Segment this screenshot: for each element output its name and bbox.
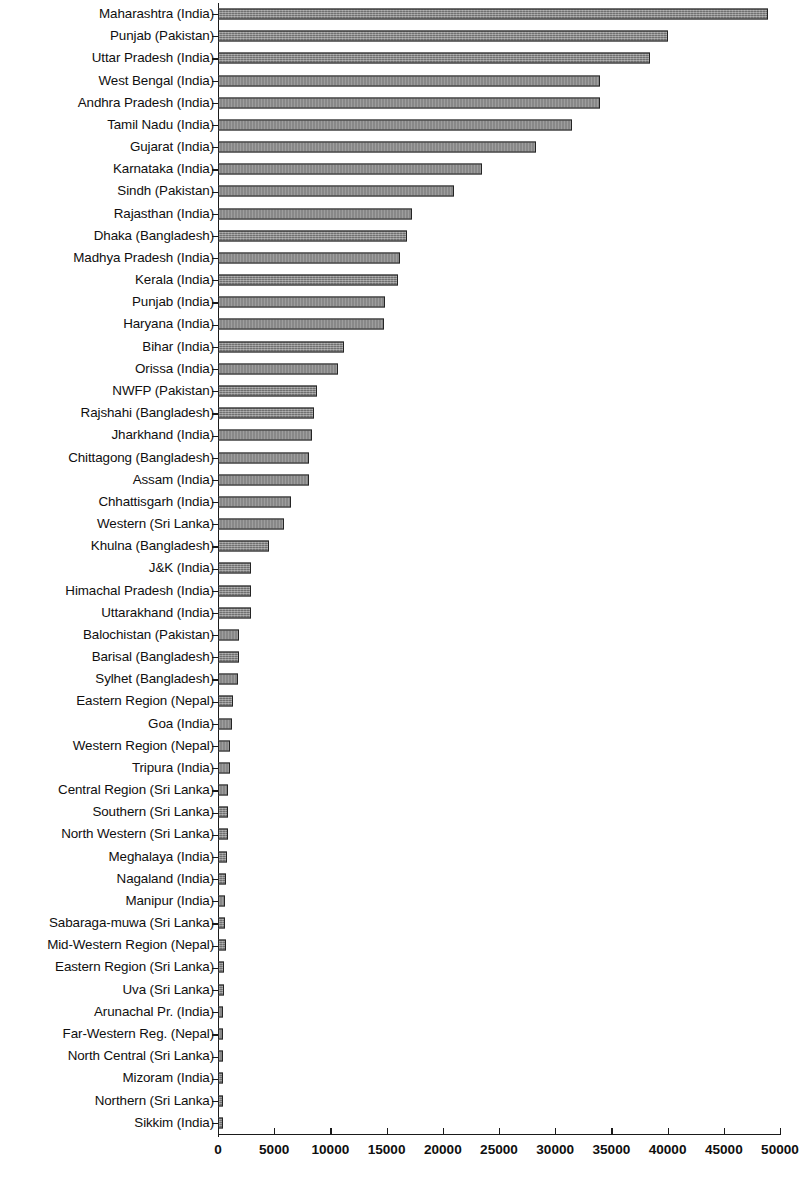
category-label: Mid-Western Region (Nepal) [47, 938, 218, 952]
category-label: North Central (Sri Lanka) [68, 1049, 218, 1063]
bar-row: North Central (Sri Lanka) [0, 1045, 804, 1067]
bar [218, 785, 228, 796]
category-tick [212, 369, 218, 370]
category-tick [212, 613, 218, 614]
category-label: Uttarakhand (India) [101, 606, 218, 620]
category-tick [212, 524, 218, 525]
value-tick [443, 1128, 444, 1135]
category-tick [212, 879, 218, 880]
category-tick [212, 14, 218, 15]
value-tick [218, 1128, 219, 1135]
bar [218, 829, 228, 840]
category-label: Tripura (India) [132, 761, 218, 775]
bar [218, 652, 239, 663]
bar [218, 674, 238, 685]
bar-row: Dhaka (Bangladesh) [0, 225, 804, 247]
category-label: Dhaka (Bangladesh) [94, 229, 218, 243]
bar [218, 252, 400, 263]
bar-row: Meghalaya (India) [0, 846, 804, 868]
category-tick [212, 81, 218, 82]
category-label: J&K (India) [149, 561, 218, 575]
category-label: Uva (Sri Lanka) [122, 983, 218, 997]
category-tick [212, 857, 218, 858]
category-tick [212, 436, 218, 437]
category-label: Meghalaya (India) [109, 850, 218, 864]
category-tick [212, 36, 218, 37]
bar-row: Karnataka (India) [0, 158, 804, 180]
bar [218, 386, 317, 397]
bar-row: Sabaraga-muwa (Sri Lanka) [0, 912, 804, 934]
bar [218, 474, 309, 485]
bar [218, 984, 224, 995]
bar-row: Sikkim (India) [0, 1112, 804, 1134]
bar-row: Bihar (India) [0, 336, 804, 358]
category-label: Sikkim (India) [134, 1116, 218, 1130]
value-tick-label: 5000 [259, 1142, 289, 1157]
category-tick [212, 1034, 218, 1035]
category-label: Madhya Pradesh (India) [73, 251, 218, 265]
value-tick-label: 0 [214, 1142, 222, 1157]
bar-row: Manipur (India) [0, 890, 804, 912]
category-tick [212, 192, 218, 193]
category-tick [212, 302, 218, 303]
category-label: Barisal (Bangladesh) [92, 650, 218, 664]
bar [218, 97, 600, 108]
category-label: Punjab (India) [132, 295, 218, 309]
category-tick [212, 214, 218, 215]
category-label: Sindh (Pakistan) [117, 184, 218, 198]
bar [218, 408, 314, 419]
category-label: Chhattisgarh (India) [98, 495, 218, 509]
bar-row: Rajasthan (India) [0, 203, 804, 225]
category-tick [212, 502, 218, 503]
bar-row: Sindh (Pakistan) [0, 180, 804, 202]
category-label: Bihar (India) [142, 340, 218, 354]
category-tick [212, 391, 218, 392]
category-tick [212, 724, 218, 725]
category-label: Jharkhand (India) [111, 428, 218, 442]
bar [218, 873, 226, 884]
bar [218, 31, 668, 42]
category-label: Tamil Nadu (India) [107, 118, 218, 132]
value-tick [668, 1128, 669, 1135]
bar-row: Punjab (India) [0, 291, 804, 313]
bar [218, 541, 269, 552]
bar [218, 297, 385, 308]
category-tick [212, 835, 218, 836]
value-tick-label: 10000 [311, 1142, 349, 1157]
bar-row: Barisal (Bangladesh) [0, 646, 804, 668]
bar [218, 762, 230, 773]
value-tick-label: 50000 [761, 1142, 799, 1157]
bar [218, 319, 384, 330]
bar-row: Tamil Nadu (India) [0, 114, 804, 136]
category-tick [212, 901, 218, 902]
category-label: Far-Western Reg. (Nepal) [63, 1027, 218, 1041]
bar-row: Chhattisgarh (India) [0, 491, 804, 513]
category-tick [212, 1079, 218, 1080]
category-label: Balochistan (Pakistan) [83, 628, 218, 642]
category-label: Sabaraga-muwa (Sri Lanka) [49, 916, 218, 930]
bar-row: North Western (Sri Lanka) [0, 823, 804, 845]
bar-row: Orissa (India) [0, 358, 804, 380]
category-tick [212, 125, 218, 126]
bar [218, 585, 251, 596]
value-tick [555, 1128, 556, 1135]
bar-row: Chittagong (Bangladesh) [0, 446, 804, 468]
bar-row: Gujarat (India) [0, 136, 804, 158]
bar-row: Uttar Pradesh (India) [0, 47, 804, 69]
category-label: Rajshahi (Bangladesh) [81, 406, 218, 420]
bar [218, 1028, 223, 1039]
value-tick [611, 1128, 612, 1135]
bar-row: Kerala (India) [0, 269, 804, 291]
category-tick [212, 58, 218, 59]
bar-row: Rajshahi (Bangladesh) [0, 402, 804, 424]
bar-row: Madhya Pradesh (India) [0, 247, 804, 269]
bar-row: Central Region (Sri Lanka) [0, 779, 804, 801]
bar-row: Sylhet (Bangladesh) [0, 668, 804, 690]
bar [218, 629, 239, 640]
bar [218, 164, 482, 175]
category-tick [212, 413, 218, 414]
bar [218, 1006, 223, 1017]
category-tick [212, 480, 218, 481]
bar-row: Northern (Sri Lanka) [0, 1089, 804, 1111]
category-tick [212, 546, 218, 547]
